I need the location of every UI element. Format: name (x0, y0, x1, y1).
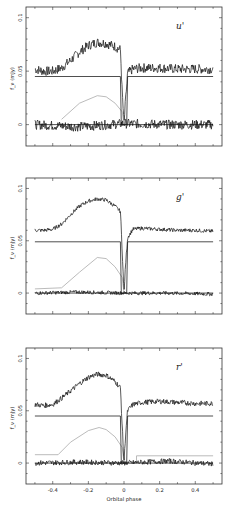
y-tick-label: 0 (17, 461, 23, 464)
panel-g-band: 00.050.1f_ν (mJy)g' (9, 178, 222, 314)
bright-spot-curve (35, 258, 124, 294)
observed-light-curve (35, 198, 213, 290)
y-tick-label: 0.05 (17, 235, 23, 247)
y-axis-label: f_ν (mJy) (9, 67, 16, 90)
residuals-curve (35, 119, 213, 131)
x-tick-label: -0.2 (83, 487, 93, 493)
light-curve-figure: 00.050.1f_ν (mJy)u'00.050.1f_ν (mJy)g'00… (0, 0, 230, 509)
band-label: g' (176, 192, 184, 202)
x-axis-label: Orbital phase (107, 496, 142, 503)
y-axis-label: f_ν (mJy) (9, 237, 16, 260)
observed-light-curve (35, 39, 213, 120)
y-tick-label: 0.1 (17, 354, 23, 362)
band-label: r' (176, 362, 183, 372)
x-tick-label: 0.4 (191, 487, 200, 493)
panel-r-band: 00.050.1f_ν (mJy)-0.4-0.200.20.4r' (9, 348, 222, 493)
y-tick-label: 0.1 (17, 14, 23, 22)
x-tick-label: 0.2 (156, 487, 164, 493)
x-tick-label: 0 (122, 487, 125, 493)
y-tick-label: 0.05 (17, 65, 23, 77)
y-tick-label: 0.05 (17, 405, 23, 417)
y-tick-label: 0 (17, 123, 23, 126)
y-tick-label: 0.1 (17, 184, 23, 192)
y-axis-label: f_ν (mJy) (9, 407, 16, 430)
band-label: u' (176, 21, 184, 31)
x-tick-label: -0.4 (48, 487, 59, 493)
bright-spot-curve (62, 96, 124, 125)
y-tick-label: 0 (17, 291, 23, 294)
panel-u-band: 00.050.1f_ν (mJy)u' (9, 7, 222, 146)
